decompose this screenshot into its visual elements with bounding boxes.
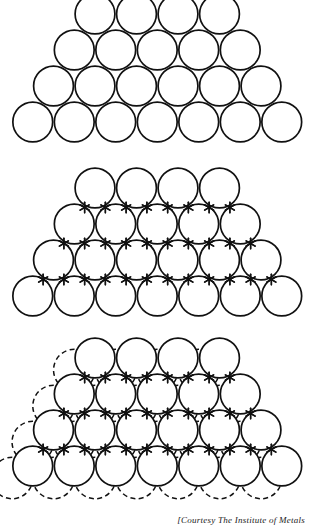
sphere [158,66,198,106]
sphere [179,30,219,70]
sphere-layer-group [13,0,302,142]
panel-interstice-packing [0,174,313,354]
figure-credit-caption: [Courtesy The Institute of Metals [0,515,313,525]
sphere [54,30,94,70]
sphere [54,102,94,142]
sphere [220,30,260,70]
sphere [75,0,115,34]
sphere [158,168,198,208]
sphere [75,168,115,208]
sphere [200,338,240,378]
sphere [13,102,53,142]
sphere [117,168,157,208]
sphere [75,66,115,106]
sphere [117,338,157,378]
sphere [117,66,157,106]
diagram-panel-interstice-packing [0,174,313,354]
sphere [158,0,198,34]
sphere [117,0,157,34]
sphere [179,102,219,142]
sphere [34,66,74,106]
sphere-layer-group [13,168,302,316]
sphere [75,338,115,378]
sphere [200,0,240,34]
sphere [241,66,281,106]
sphere [96,30,136,70]
sphere [137,30,177,70]
panel-second-layer-packing [0,344,313,516]
diagram-panel-plain-packing [0,0,313,180]
sphere-packing-figure: [Courtesy The Institute of Metals [0,0,313,528]
sphere [262,102,302,142]
diagram-panel-second-layer-packing [0,344,313,516]
sphere [96,102,136,142]
sphere [220,102,260,142]
sphere [158,338,198,378]
sphere-layer-group [13,338,302,486]
sphere [200,66,240,106]
panel-plain-packing [0,0,313,180]
sphere [137,102,177,142]
sphere [200,168,240,208]
